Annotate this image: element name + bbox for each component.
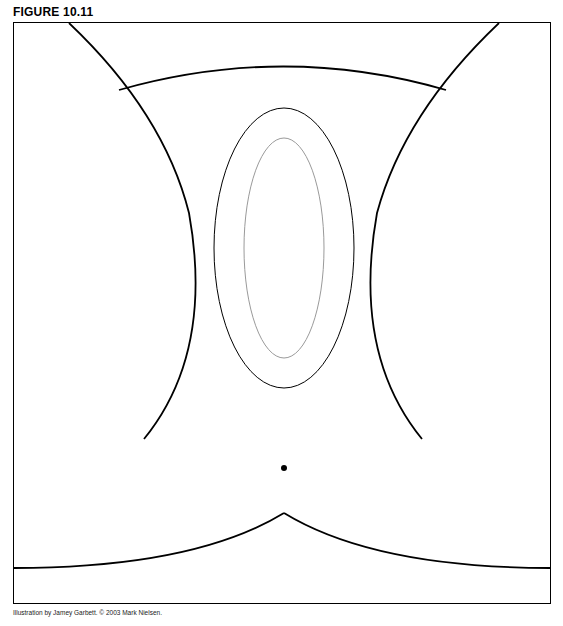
contour-bottom-right [284, 513, 551, 568]
central-form [214, 108, 354, 388]
contour-left [69, 23, 196, 439]
figure-frame [13, 22, 551, 604]
contour-bottom-left [14, 513, 284, 568]
figure-label: FIGURE 10.11 [13, 5, 93, 19]
anatomical-illustration [14, 23, 551, 604]
figure-credit: Illustration by Jamey Garbett. © 2003 Ma… [13, 609, 162, 616]
contour-right [370, 23, 499, 439]
contour-top [119, 67, 446, 91]
